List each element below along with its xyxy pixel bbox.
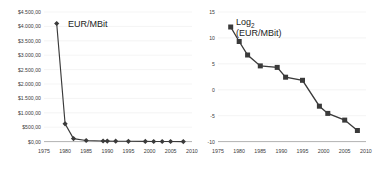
- linear-gridlines: [44, 12, 192, 127]
- x-tick-label: 2005: [160, 148, 182, 154]
- y-tick-label: $3.500,00: [0, 38, 41, 44]
- y-tick-label: 5: [196, 61, 215, 67]
- linear-series-line: [57, 24, 184, 142]
- x-tick-label: 2000: [313, 148, 335, 154]
- y-tick-label: $500,00: [0, 124, 41, 130]
- x-tick-label: 1980: [54, 148, 76, 154]
- x-tick-label: 1985: [249, 148, 271, 154]
- y-tick-label: $4.000,00: [0, 23, 41, 29]
- y-tick-label: -10: [196, 139, 215, 145]
- log2-series-annotation-units: (EUR/MBit): [236, 28, 282, 39]
- log2-series-line: [231, 27, 358, 131]
- dual-chart-figure: $4.500,00 $4.000,00 $3.500,00 $3.000,00 …: [0, 0, 391, 171]
- y-tick-label: $4.500,00: [0, 9, 41, 15]
- x-tick-label: 2010: [355, 148, 377, 154]
- y-tick-label: $3.000,00: [0, 52, 41, 58]
- linear-series-annotation: EUR/MBit: [68, 19, 108, 30]
- x-tick-label: 1995: [292, 148, 314, 154]
- x-tick-label: 1990: [96, 148, 118, 154]
- x-tick-label: 1975: [207, 148, 229, 154]
- y-tick-label: $1.000,00: [0, 110, 41, 116]
- x-tick-label: 2005: [334, 148, 356, 154]
- chart-panel-linear: $4.500,00 $4.000,00 $3.500,00 $3.000,00 …: [0, 0, 196, 171]
- x-tick-label: 2000: [139, 148, 161, 154]
- log2-chart-canvas: [196, 0, 391, 171]
- y-tick-label: 15: [196, 9, 215, 15]
- x-tick-label: 1980: [228, 148, 250, 154]
- y-tick-label: $0,00: [0, 139, 41, 145]
- y-tick-label: $2.500,00: [0, 67, 41, 73]
- x-tick-label: 1990: [270, 148, 292, 154]
- y-tick-label: $2.000,00: [0, 81, 41, 87]
- log2-annotation-base: Log: [236, 17, 251, 27]
- x-tick-label: 1995: [118, 148, 140, 154]
- y-tick-label: -5: [196, 113, 215, 119]
- x-tick-label: 1985: [75, 148, 97, 154]
- y-tick-label: $1.500,00: [0, 95, 41, 101]
- chart-panel-log2: 15 10 5 0 -5 -10 1975 1980 1985 1990 199…: [196, 0, 391, 171]
- y-tick-label: 0: [196, 87, 215, 93]
- x-tick-label: 1975: [33, 148, 55, 154]
- y-tick-label: 10: [196, 35, 215, 41]
- linear-series-markers: [54, 21, 186, 144]
